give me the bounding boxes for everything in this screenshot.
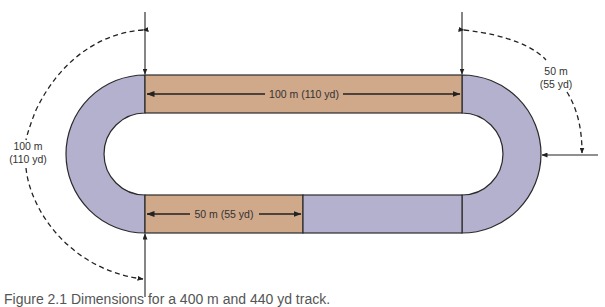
right-curve-label-line2: (55 yd)	[540, 78, 573, 90]
left-curve-label-line1: 100 m	[13, 140, 42, 152]
right-curve	[462, 75, 541, 233]
top-straight-label: 100 m (110 yd)	[269, 88, 339, 100]
bottom-straight-second-half	[303, 195, 462, 233]
left-curve	[66, 75, 145, 233]
left-curve-label-line2: (110 yd)	[9, 153, 47, 165]
right-curve-label-line1: 50 m	[544, 65, 568, 77]
bottom-straight-label: 50 m (55 yd)	[195, 208, 254, 220]
figure-caption: Figure 2.1 Dimensions for a 400 m and 44…	[4, 291, 330, 307]
